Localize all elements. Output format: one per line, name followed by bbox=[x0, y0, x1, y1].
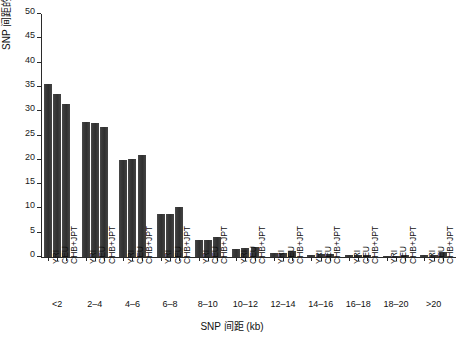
y-tick-label: 45 bbox=[25, 31, 35, 40]
x-tick-mark bbox=[424, 257, 425, 261]
y-tick-label: 40 bbox=[25, 56, 35, 65]
bar bbox=[82, 122, 90, 257]
series-label-chb-jpt: CHB+JPT bbox=[145, 226, 154, 264]
series-label-chb-jpt: CHB+JPT bbox=[296, 226, 305, 264]
x-tick-mark bbox=[199, 257, 200, 261]
x-tick-mark bbox=[349, 257, 350, 261]
series-label-yri: YRI bbox=[164, 250, 173, 264]
series-label-chb-jpt: CHB+JPT bbox=[333, 226, 342, 264]
bar bbox=[44, 84, 52, 257]
series-label-chb-jpt: CHB+JPT bbox=[409, 226, 418, 264]
y-tick-label: 25 bbox=[25, 129, 35, 138]
x-tick-mark bbox=[311, 257, 312, 261]
series-label-yri: YRI bbox=[240, 250, 249, 264]
x-tick-mark bbox=[161, 257, 162, 261]
y-tick-label: 50 bbox=[25, 7, 35, 16]
x-tick-mark bbox=[236, 257, 237, 261]
bar bbox=[91, 123, 99, 257]
x-tick-mark bbox=[274, 257, 275, 261]
series-label-ceu: CEU bbox=[287, 246, 296, 264]
bar bbox=[53, 94, 61, 257]
y-axis-title: SNP 间距的比例 (%) bbox=[0, 0, 13, 50]
series-label-chb-jpt: CHB+JPT bbox=[371, 226, 380, 264]
y-tick-label: 0 bbox=[30, 250, 35, 259]
x-tick-mark bbox=[48, 257, 49, 261]
series-label-ceu: CEU bbox=[399, 246, 408, 264]
series-label-chb-jpt: CHB+JPT bbox=[446, 226, 455, 264]
y-tick-label: 30 bbox=[25, 104, 35, 113]
series-label-ceu: CEU bbox=[98, 246, 107, 264]
series-label-yri: YRI bbox=[353, 250, 362, 264]
y-axis-title-container: SNP 间距的比例 (%) bbox=[0, 0, 20, 260]
series-label-chb-jpt: CHB+JPT bbox=[220, 226, 229, 264]
series-label-ceu: CEU bbox=[362, 246, 371, 264]
series-label-chb-jpt: CHB+JPT bbox=[108, 226, 117, 264]
x-tick-mark bbox=[123, 257, 124, 261]
series-label-yri: YRI bbox=[277, 250, 286, 264]
x-tick-mark bbox=[86, 257, 87, 261]
x-tick-mark bbox=[387, 257, 388, 261]
snp-spacing-bar-chart: SNP 间距的比例 (%) 05101520253035404550 YRICE… bbox=[0, 0, 464, 339]
x-axis-title: SNP 间距 (kb) bbox=[0, 318, 464, 333]
group-label: >20 bbox=[410, 300, 458, 309]
series-label-chb-jpt: CHB+JPT bbox=[183, 226, 192, 264]
y-tick-label: 15 bbox=[25, 177, 35, 186]
y-tick-label: 10 bbox=[25, 201, 35, 210]
series-label-yri: YRI bbox=[127, 250, 136, 264]
bar bbox=[119, 160, 127, 257]
series-label-chb-jpt: CHB+JPT bbox=[258, 226, 267, 264]
series-label-ceu: CEU bbox=[61, 246, 70, 264]
series-label-chb-jpt: CHB+JPT bbox=[70, 226, 79, 264]
series-label-ceu: CEU bbox=[174, 246, 183, 264]
y-tick-label: 35 bbox=[25, 80, 35, 89]
series-label-yri: YRI bbox=[52, 250, 61, 264]
bar bbox=[128, 159, 136, 257]
y-tick-label: 20 bbox=[25, 153, 35, 162]
bars-layer bbox=[41, 14, 455, 257]
y-tick-label: 5 bbox=[30, 226, 35, 235]
